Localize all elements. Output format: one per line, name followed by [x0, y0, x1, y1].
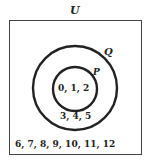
venn-diagram — [0, 0, 148, 160]
inner-elements: 0, 1, 2 — [58, 83, 89, 93]
universal-set-label: U — [70, 4, 80, 17]
set-q-label: Q — [104, 46, 113, 57]
outside-elements: 6, 7, 8, 9, 10, 11, 12 — [15, 139, 115, 149]
set-p-label: P — [93, 67, 100, 77]
ring-elements: 3, 4, 5 — [60, 111, 91, 121]
